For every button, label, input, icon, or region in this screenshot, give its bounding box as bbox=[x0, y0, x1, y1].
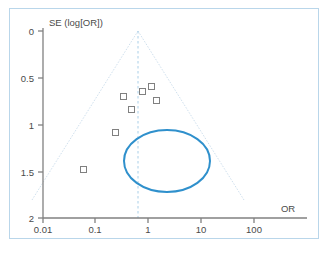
study-marker bbox=[140, 89, 146, 95]
or-tick-label-1: 1 bbox=[145, 224, 150, 235]
or-tick-label-0.01: 0.01 bbox=[34, 224, 53, 235]
study-marker bbox=[129, 107, 135, 113]
study-marker bbox=[81, 167, 87, 173]
study-marker bbox=[113, 130, 119, 136]
se-tick-label-2: 2 bbox=[29, 213, 34, 224]
highlight-ellipse bbox=[124, 130, 210, 192]
funnel-plot-canvas: 0 0.5 1 1.5 2 SE (log[OR]) 0.01 0.1 1 10… bbox=[0, 0, 330, 254]
or-axis-title: OR bbox=[281, 203, 295, 214]
se-tick-label-0: 0 bbox=[29, 26, 34, 37]
se-axis-title: SE (log[OR]) bbox=[49, 17, 103, 28]
study-marker bbox=[149, 84, 155, 90]
or-axis-ticks bbox=[43, 218, 254, 223]
se-tick-label-1.5: 1.5 bbox=[21, 167, 34, 178]
study-markers bbox=[81, 84, 160, 173]
study-marker bbox=[154, 98, 160, 104]
study-marker bbox=[121, 94, 127, 100]
or-tick-label-100: 100 bbox=[246, 224, 262, 235]
funnel-left-edge bbox=[32, 31, 138, 200]
se-tick-label-1: 1 bbox=[29, 120, 34, 131]
funnel-right-edge bbox=[138, 31, 244, 200]
or-tick-label-0.1: 0.1 bbox=[88, 224, 101, 235]
or-tick-label-10: 10 bbox=[196, 224, 207, 235]
se-tick-label-0.5: 0.5 bbox=[21, 73, 34, 84]
funnel-plot-figure: 0 0.5 1 1.5 2 SE (log[OR]) 0.01 0.1 1 10… bbox=[0, 0, 330, 254]
